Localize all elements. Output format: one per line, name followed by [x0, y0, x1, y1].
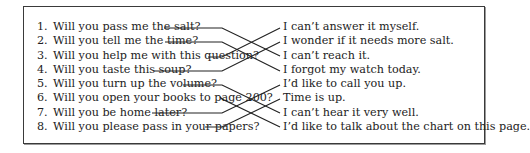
- match-line: [220, 97, 280, 127]
